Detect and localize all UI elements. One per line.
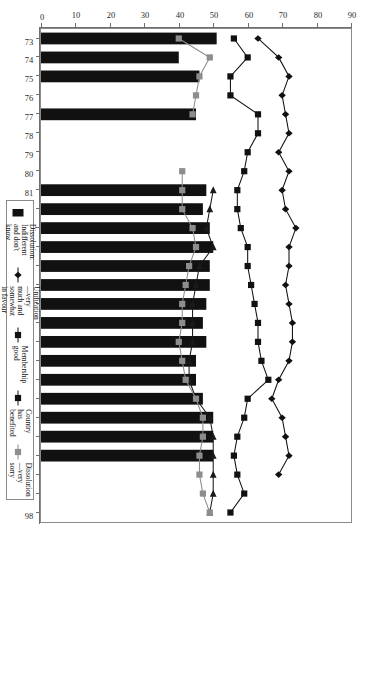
point-3-88: [179, 320, 185, 326]
point-3-73: [176, 35, 182, 41]
bar-74: [41, 52, 179, 64]
point-2-90: [285, 358, 292, 365]
x-tick-96: [36, 474, 40, 475]
point-1-89: [255, 339, 261, 345]
point-2-92: [268, 395, 275, 402]
point-1-83: [238, 225, 244, 231]
legend-label-3: Country has benefited: [8, 409, 33, 437]
bar-85: [41, 260, 210, 272]
x-tick-81: [36, 189, 40, 190]
point-0-97: [210, 490, 217, 497]
point-3-75: [196, 73, 202, 79]
legend-item-4: Dissolution—very sorry: [8, 444, 33, 497]
point-2-94: [282, 433, 289, 440]
rotated-figure-wrapper: 7374757677787980818283848586878889909192…: [0, 0, 370, 678]
series-2: [254, 35, 299, 478]
bar-73: [41, 33, 217, 45]
y-tick-label-20: 20: [107, 11, 116, 20]
point-3-81: [179, 187, 185, 193]
y-tick-20: [110, 23, 111, 27]
bar-75: [41, 71, 199, 83]
x-tick-93: [36, 417, 40, 418]
point-0-81: [210, 186, 217, 193]
point-3-76: [193, 92, 199, 98]
x-tick-80: [36, 170, 40, 171]
y-tick-60: [248, 23, 249, 27]
point-3-80: [179, 168, 185, 174]
point-2-77: [282, 111, 289, 118]
point-2-89: [289, 339, 296, 346]
point-3-95: [196, 453, 202, 459]
point-1-73: [231, 35, 237, 41]
point-3-83: [189, 225, 195, 231]
y-tick-label-50: 50: [210, 11, 219, 20]
legend-label-2: Membership good: [12, 346, 28, 383]
x-tick-78: [36, 132, 40, 133]
series-0: [186, 186, 217, 515]
bar-88: [41, 317, 203, 329]
point-1-75: [227, 73, 233, 79]
bar-93: [41, 412, 213, 424]
x-tick-label-79: 79: [25, 151, 34, 160]
point-1-97: [241, 490, 247, 496]
legend-marker-plus-square-icon: [14, 390, 26, 406]
bar-group: [41, 33, 217, 462]
y-tick-label-90: 90: [348, 11, 357, 20]
legend-marker-filled-rectangle-icon: [14, 205, 26, 221]
x-tick-74: [36, 56, 40, 57]
point-1-91: [265, 377, 271, 383]
point-2-86: [282, 282, 289, 289]
point-1-95: [231, 453, 237, 459]
legend-item-3: Country has benefited: [8, 390, 33, 437]
plot-svg: [41, 29, 351, 522]
plot-frame: [40, 28, 352, 523]
point-2-91: [275, 376, 282, 383]
legend-item-2: Membership good: [12, 327, 28, 383]
bar-82: [41, 203, 203, 215]
y-tick-label-40: 40: [176, 11, 185, 20]
point-2-87: [285, 301, 292, 308]
y-tick-label-10: 10: [72, 11, 81, 20]
point-1-94: [234, 434, 240, 440]
point-3-82: [179, 206, 185, 212]
y-tick-label-0: 0: [40, 13, 44, 22]
point-2-84: [285, 244, 292, 251]
legend-marker-grey-square-icon: [14, 444, 26, 460]
x-tick-89: [36, 341, 40, 342]
legend-marker-filled-diamond-icon: [14, 267, 26, 283]
point-1-76: [227, 92, 233, 98]
x-tick-label-80: 80: [25, 170, 34, 179]
bar-94: [41, 431, 213, 443]
point-2-75: [285, 73, 292, 80]
x-tick-77: [36, 113, 40, 114]
point-1-96: [234, 472, 240, 478]
y-tick-label-30: 30: [141, 11, 150, 20]
y-tick-30: [144, 23, 145, 27]
bar-91: [41, 374, 196, 386]
x-tick-92: [36, 398, 40, 399]
point-2-83: [292, 225, 299, 232]
x-tick-85: [36, 265, 40, 266]
legend-item-0: Dissolution: Indifferent and don't know: [4, 205, 37, 260]
point-1-98: [227, 509, 233, 515]
legend-label-1: Unification—very much and somewhat in fa…: [0, 286, 41, 320]
point-1-77: [255, 111, 261, 117]
x-tick-label-98: 98: [25, 512, 34, 521]
point-1-87: [251, 301, 257, 307]
point-0-82: [206, 205, 213, 212]
bar-83: [41, 222, 210, 234]
legend-marker-filled-square-icon: [14, 327, 26, 343]
point-3-94: [200, 434, 206, 440]
x-tick-label-75: 75: [25, 75, 34, 84]
point-3-87: [179, 301, 185, 307]
point-2-78: [285, 130, 292, 137]
y-tick-90: [351, 23, 352, 27]
point-3-98: [207, 509, 213, 515]
point-1-93: [241, 415, 247, 421]
x-tick-label-78: 78: [25, 132, 34, 141]
bar-77: [41, 108, 196, 120]
y-axis-line: [39, 27, 352, 28]
point-2-93: [278, 414, 285, 421]
x-tick-97: [36, 493, 40, 494]
x-tick-label-74: 74: [25, 56, 34, 65]
